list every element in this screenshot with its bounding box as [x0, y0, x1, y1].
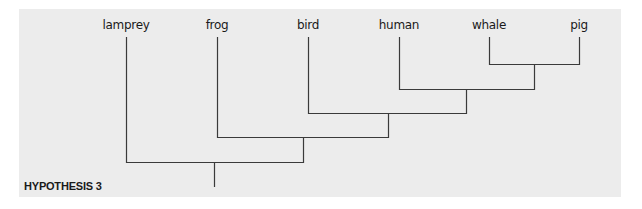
branch-whale-pig: [490, 37, 580, 65]
branch-lamprey-clade: [127, 37, 304, 163]
branch-human-clade: [400, 37, 535, 90]
branch-frog-clade: [218, 37, 389, 138]
branch-bird-clade: [309, 37, 467, 114]
figure-caption: HYPOTHESIS 3: [24, 180, 102, 192]
cladogram: [0, 0, 642, 209]
